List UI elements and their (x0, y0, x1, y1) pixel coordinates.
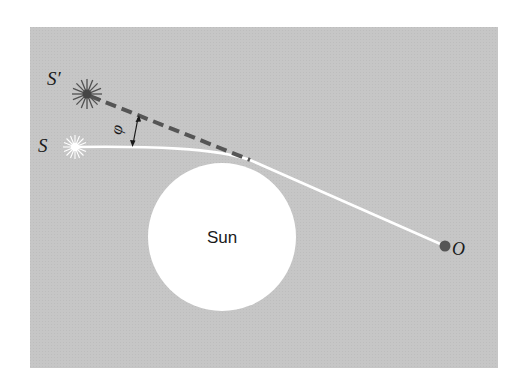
true-star-icon (63, 135, 87, 159)
observer-label: O (452, 239, 465, 259)
sun-label: Sun (207, 228, 237, 247)
observer-dot (440, 241, 451, 252)
light-deflection-diagram: Sun φ S′ S O (0, 0, 526, 382)
apparent-star-icon (72, 79, 102, 109)
true-star-label: S (38, 135, 48, 156)
apparent-star-label: S′ (47, 68, 62, 89)
